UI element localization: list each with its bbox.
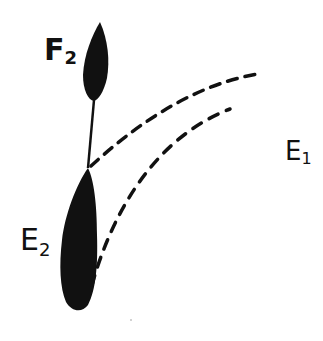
diagram-canvas: F2 E2 E1 xyxy=(0,0,323,341)
label-e1: E1 xyxy=(285,136,312,168)
label-f2: F2 xyxy=(44,32,77,68)
stem-line xyxy=(88,100,94,168)
f2-leaf-shape xyxy=(83,22,108,101)
lower-dashed-curve xyxy=(92,109,230,285)
label-e2: E2 xyxy=(20,222,50,260)
upper-dashed-curve xyxy=(91,74,258,166)
e2-blob-shape xyxy=(60,168,97,310)
speck-mark xyxy=(130,319,132,321)
